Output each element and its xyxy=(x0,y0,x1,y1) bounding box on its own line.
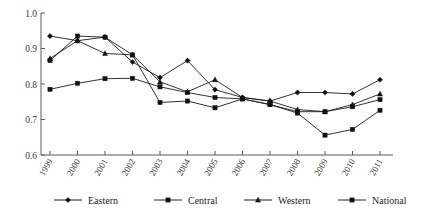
data-point xyxy=(350,105,354,109)
data-point xyxy=(295,90,300,95)
data-point xyxy=(213,106,217,110)
data-point xyxy=(322,90,327,95)
data-point xyxy=(213,77,218,82)
x-tick-label: 2011 xyxy=(367,157,384,177)
data-point xyxy=(103,77,107,81)
x-tick-label: 2005 xyxy=(202,157,220,178)
x-tick-label: 2002 xyxy=(120,157,138,178)
data-point xyxy=(268,102,272,106)
legend-label: Western xyxy=(278,195,311,206)
x-tick-label: 2000 xyxy=(65,157,83,178)
x-tick-label: 2007 xyxy=(257,157,275,178)
y-tick-label: 0.6 xyxy=(25,151,37,161)
legend-item-central[interactable]: Central xyxy=(154,195,218,206)
series-line-western xyxy=(50,41,380,112)
data-point xyxy=(350,91,355,96)
data-point xyxy=(378,91,383,96)
x-tick-label: 2008 xyxy=(285,157,303,178)
data-point xyxy=(158,85,162,89)
data-point xyxy=(213,95,217,99)
data-point xyxy=(47,33,52,38)
legend-item-eastern[interactable]: Eastern xyxy=(54,195,118,206)
legend-marker-diamond-icon xyxy=(65,197,70,202)
legend-label: National xyxy=(372,195,407,206)
data-point xyxy=(323,110,327,114)
y-tick-label: 0.9 xyxy=(25,44,37,54)
data-point xyxy=(378,108,382,112)
data-point xyxy=(323,133,327,137)
data-point xyxy=(48,87,52,91)
x-tick-label: 2004 xyxy=(175,157,193,178)
series-central xyxy=(48,34,382,137)
data-point xyxy=(377,77,382,82)
y-tick-label: 0.7 xyxy=(25,115,37,125)
data-point xyxy=(103,35,107,39)
legend-label: Eastern xyxy=(88,195,118,206)
data-point xyxy=(158,100,162,104)
legend-marker-square-icon xyxy=(166,198,170,202)
legend-item-national[interactable]: National xyxy=(338,195,407,206)
data-point xyxy=(350,127,354,131)
chart-canvas: 1.00.90.80.70.61999200020012002200320042… xyxy=(0,0,438,216)
legend-item-western[interactable]: Western xyxy=(244,195,311,206)
series-western xyxy=(48,38,383,114)
x-tick-label: 2003 xyxy=(147,157,165,178)
legend-label: Central xyxy=(188,195,218,206)
data-point xyxy=(185,90,189,94)
x-tick-label: 2009 xyxy=(312,157,330,178)
data-point xyxy=(75,81,79,85)
data-point xyxy=(295,110,299,114)
x-tick-label: 2010 xyxy=(340,157,358,178)
legend-marker-square-icon xyxy=(350,198,354,202)
series-eastern xyxy=(47,33,382,103)
data-point xyxy=(378,98,382,102)
y-tick-label: 0.8 xyxy=(25,80,37,90)
x-tick-label: 2001 xyxy=(92,157,110,178)
data-point xyxy=(240,97,244,101)
y-tick-label: 1.0 xyxy=(25,9,37,19)
x-tick-label: 2006 xyxy=(230,157,248,178)
data-point xyxy=(185,99,189,103)
data-point xyxy=(48,56,53,61)
line-chart: 1.00.90.80.70.61999200020012002200320042… xyxy=(0,0,438,216)
x-tick-label: 1999 xyxy=(37,157,55,178)
data-point xyxy=(130,76,134,80)
